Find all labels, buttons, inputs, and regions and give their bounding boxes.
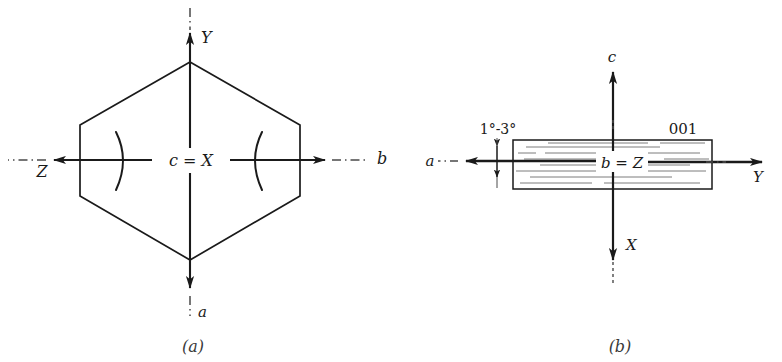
panel-a-axis-z-label: Z xyxy=(35,162,48,181)
panel-b-axis-a-label: a xyxy=(426,152,435,170)
panel-b-angle-label: 1°-3° xyxy=(480,121,517,137)
panel-a-center-label: c = X xyxy=(169,151,214,170)
panel-b-center-label: b = Z xyxy=(601,154,644,172)
panel-a-caption: (a) xyxy=(182,337,204,356)
figure-canvas: c = X Y a Z b (a) xyxy=(0,0,782,362)
panel-b-face-index-label: 001 xyxy=(669,120,698,138)
panel-b-axis-x-label: X xyxy=(625,236,638,254)
panel-a-axis-a-label: a xyxy=(198,303,207,321)
panel-a-axis-b-label: b xyxy=(377,149,387,168)
panel-b-axis-c-label: c xyxy=(608,48,617,66)
panel-a-axis-y-label: Y xyxy=(201,28,213,47)
panel-b-caption: (b) xyxy=(609,337,632,356)
panel-b-group: b = Z c X a Y 001 1°-3° (b) xyxy=(426,48,766,356)
panel-a-group: c = X Y a Z b (a) xyxy=(8,8,387,356)
crystallography-figure: c = X Y a Z b (a) xyxy=(0,0,782,362)
panel-b-axis-y-label: Y xyxy=(753,168,765,186)
